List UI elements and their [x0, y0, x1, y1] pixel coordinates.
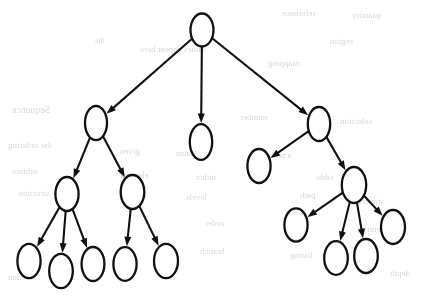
tree-node-leaf[interactable]	[17, 244, 40, 278]
arrow-head-icon	[37, 237, 45, 247]
tree-node-internal[interactable]	[308, 107, 330, 141]
tree-node-leaf[interactable]	[49, 254, 73, 288]
tree-node-leaf[interactable]	[113, 247, 136, 281]
tree-diagram-figure: referencequantitythevalues appear herere…	[0, 0, 421, 299]
arrow-head-icon	[80, 238, 87, 248]
tree-edge	[213, 38, 309, 115]
tree-node-internal[interactable]	[121, 175, 145, 209]
tree-edge	[73, 210, 87, 248]
tree-graph-canvas	[0, 0, 421, 299]
arrow-head-icon	[60, 243, 67, 253]
tree-node-leaf[interactable]	[381, 210, 405, 244]
tree-node-leaf[interactable]	[82, 247, 105, 281]
tree-edge	[37, 208, 59, 247]
tree-edge	[327, 137, 346, 170]
tree-edge	[107, 39, 192, 114]
tree-node-root[interactable]	[191, 14, 214, 47]
arrow-head-icon	[73, 168, 80, 178]
tree-edge	[270, 131, 308, 157]
tree-edge	[339, 203, 350, 241]
node-layer	[17, 14, 405, 289]
tree-node-leaf[interactable]	[324, 241, 348, 275]
tree-edge	[73, 138, 89, 178]
tree-node-leaf[interactable]	[247, 149, 270, 183]
tree-node-leaf[interactable]	[354, 239, 378, 273]
arrow-head-icon	[307, 209, 317, 217]
arrow-head-icon	[339, 231, 346, 241]
tree-edge	[124, 209, 131, 246]
tree-edge	[364, 196, 382, 216]
arrow-head-icon	[198, 113, 205, 123]
tree-edge	[103, 137, 125, 178]
tree-node-leaf[interactable]	[154, 244, 178, 278]
arrow-head-icon	[338, 160, 346, 170]
tree-node-leaf[interactable]	[190, 124, 212, 160]
tree-edge	[140, 206, 159, 245]
arrow-head-icon	[117, 167, 125, 177]
arrow-head-icon	[124, 236, 131, 246]
tree-node-internal[interactable]	[85, 106, 107, 140]
tree-edge	[357, 203, 365, 238]
arrow-head-icon	[358, 228, 365, 238]
tree-node-internal[interactable]	[55, 177, 78, 211]
arrow-head-icon	[151, 236, 158, 246]
tree-node-internal[interactable]	[342, 167, 366, 203]
tree-edge	[60, 211, 67, 252]
tree-edge	[307, 193, 342, 217]
tree-node-leaf[interactable]	[284, 208, 307, 241]
tree-edge	[198, 47, 205, 123]
